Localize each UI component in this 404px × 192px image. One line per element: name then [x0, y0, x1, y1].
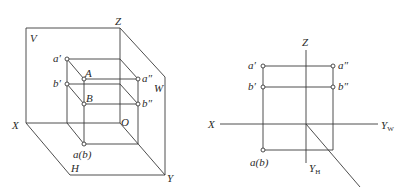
label-Yh: YH: [309, 162, 320, 176]
label-a-prime: a′: [248, 59, 257, 71]
orthographic-views-figure: Z X YW YH a′ b′ a″ b″ a(b): [207, 36, 394, 187]
label-V: V: [30, 32, 38, 44]
label-ab: a(b): [250, 156, 269, 169]
label-ab: a(b): [73, 148, 92, 161]
point-b-prime: [65, 82, 69, 86]
label-X: X: [11, 119, 20, 131]
b-prime-projector: [67, 84, 138, 104]
pictorial-projection-figure: V Z W X O H Y a′ b′ A B a″ b″ a(b): [11, 15, 175, 184]
a-prime-projector: [67, 59, 138, 79]
projection-diagram: V Z W X O H Y a′ b′ A B a″ b″ a(b) Z X: [0, 0, 404, 192]
label-Y: Y: [167, 172, 175, 184]
label-b-prime: b′: [53, 77, 62, 89]
point-a-dprime: [136, 77, 140, 81]
b-prime-to-B: [67, 84, 84, 104]
label-b-prime: b′: [248, 80, 257, 92]
label-O: O: [121, 116, 129, 128]
label-Z: Z: [302, 36, 309, 48]
label-a-dprime: a″: [338, 59, 349, 71]
label-B: B: [86, 92, 93, 104]
label-A: A: [84, 67, 92, 79]
h-plane-outline: [26, 123, 165, 175]
point-ab: [261, 148, 265, 152]
point-b-dprime: [136, 102, 140, 106]
point-b-dprime: [331, 85, 335, 89]
label-b-dprime: b″: [338, 80, 349, 92]
point-a-prime: [65, 57, 69, 61]
label-Z: Z: [115, 15, 122, 27]
label-W: W: [154, 82, 164, 94]
point-a-dprime: [331, 64, 335, 68]
x-to-ab-diagonal: [67, 123, 84, 144]
label-a-prime: a′: [53, 52, 62, 64]
label-X: X: [207, 118, 216, 130]
point-ab: [82, 142, 86, 146]
label-b-dprime: b″: [142, 97, 153, 109]
v-plane-outline: [26, 28, 120, 123]
point-a-prime: [261, 64, 265, 68]
point-b-prime: [261, 85, 265, 89]
label-Yw: YW: [381, 119, 394, 133]
label-H: H: [70, 162, 80, 174]
label-a-dprime: a″: [142, 72, 153, 84]
a-prime-to-A: [67, 59, 84, 79]
